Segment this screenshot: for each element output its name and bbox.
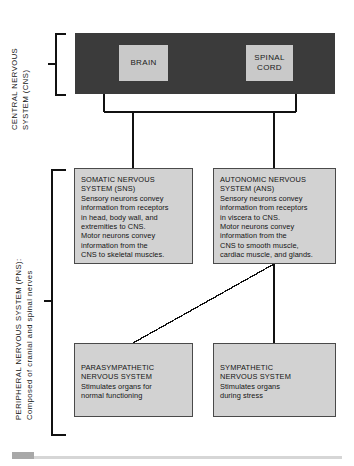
sns-body: Sensory neurons convey information from … bbox=[81, 194, 187, 260]
sympathetic-body: Stimulates organs during stress bbox=[220, 382, 330, 401]
sns-title: SOMATIC NERVOUS SYSTEM (SNS) bbox=[81, 175, 187, 194]
pns-bracket bbox=[52, 170, 66, 435]
sympathetic-title: SYMPATHETIC NERVOUS SYSTEM bbox=[220, 363, 330, 382]
ans-body: Sensory neurons convey information from … bbox=[220, 194, 330, 260]
footer-rule bbox=[12, 456, 342, 459]
cns-side-label: CENTRAL NERVOUS SYSTEM (CNS) bbox=[10, 10, 31, 130]
brain-label: BRAIN bbox=[130, 58, 156, 68]
footer-mark bbox=[12, 452, 34, 459]
cns-bracket bbox=[56, 34, 66, 95]
parasympathetic-nervous-system-box: PARASYMPATHETIC NERVOUS SYSTEM Stimulate… bbox=[74, 343, 193, 417]
autonomic-nervous-system-box: AUTONOMIC NERVOUS SYSTEM (ANS) Sensory n… bbox=[213, 168, 336, 264]
spinal-cord-label: SPINAL CORD bbox=[254, 53, 285, 73]
sympathetic-nervous-system-box: SYMPATHETIC NERVOUS SYSTEM Stimulates or… bbox=[213, 343, 336, 417]
pns-side-label: PERIPHERAL NERVOUS SYSTEM (PNS): Compose… bbox=[14, 150, 35, 420]
parasympathetic-body: Stimulates organs for normal functioning bbox=[81, 382, 187, 401]
nervous-system-diagram: BRAIN SPINAL CORD SOMATIC NERVOUS SYSTEM… bbox=[0, 0, 354, 466]
line-ans-to-parasympathetic bbox=[133, 264, 274, 343]
spinal-cord-box: SPINAL CORD bbox=[245, 44, 294, 82]
parasympathetic-title: PARASYMPATHETIC NERVOUS SYSTEM bbox=[81, 363, 187, 382]
somatic-nervous-system-box: SOMATIC NERVOUS SYSTEM (SNS) Sensory neu… bbox=[74, 168, 193, 264]
cns-bar: BRAIN SPINAL CORD bbox=[75, 33, 335, 94]
ans-title: AUTONOMIC NERVOUS SYSTEM (ANS) bbox=[220, 175, 330, 194]
brain-box: BRAIN bbox=[118, 44, 169, 82]
